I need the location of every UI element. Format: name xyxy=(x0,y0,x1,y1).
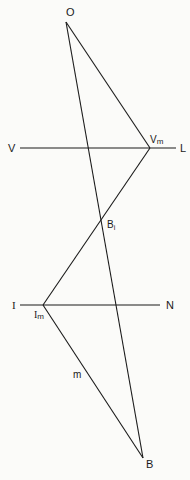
label-im-sub: m xyxy=(37,312,44,321)
label-b: B xyxy=(146,458,153,470)
line-o-b xyxy=(66,22,143,458)
label-m: m xyxy=(73,369,81,380)
line-o-vm xyxy=(66,22,150,148)
label-v: V xyxy=(8,142,16,154)
line-im-b xyxy=(43,305,143,458)
label-bi-sub: i xyxy=(114,224,116,231)
geometry-diagram: O V L Vm Bi I N Im m B xyxy=(0,0,190,480)
label-bi: Bi xyxy=(107,219,116,231)
label-vm-sub: m xyxy=(157,137,164,146)
label-o: O xyxy=(66,6,75,18)
label-vm: Vm xyxy=(150,134,164,146)
label-l: L xyxy=(180,142,186,154)
label-im: Im xyxy=(34,309,44,321)
label-i: I xyxy=(12,299,16,311)
label-n: N xyxy=(166,299,174,311)
line-vm-im xyxy=(43,148,150,305)
